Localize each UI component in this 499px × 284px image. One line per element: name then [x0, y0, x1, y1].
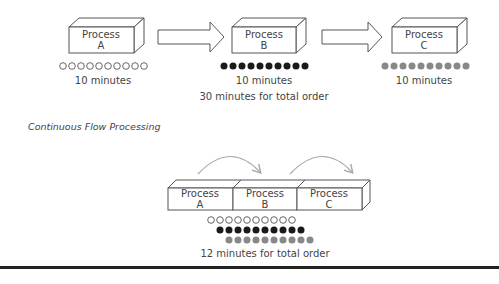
- batch-b-name: Process: [245, 29, 283, 40]
- flow-total-time: 12 minutes for total order: [200, 248, 330, 259]
- flow-a-name: Process: [181, 188, 219, 199]
- batch-c-name: Process: [405, 29, 443, 40]
- batch-a-dots: [60, 63, 148, 70]
- section-label: Continuous Flow Processing: [28, 121, 161, 132]
- curve-arrow-icon: [198, 156, 260, 174]
- curve-arrow-icon: [290, 156, 352, 174]
- flow-b-name: Process: [246, 188, 284, 199]
- flow-arrow-icon: [158, 22, 224, 52]
- flow-hollow-dots: [208, 217, 296, 224]
- batch-a-name: Process: [82, 29, 120, 40]
- batch-c-time: 10 minutes: [396, 75, 452, 86]
- flow-c-name: Process: [310, 188, 348, 199]
- batch-b-dots: [221, 63, 309, 70]
- batch-total-time: 30 minutes for total order: [199, 91, 329, 102]
- batch-c-letter: C: [421, 40, 428, 51]
- flow-b-letter: B: [262, 199, 269, 210]
- flow-gray-dots: [226, 237, 314, 244]
- batch-a-letter: A: [98, 40, 105, 51]
- bottom-rule: [0, 266, 499, 269]
- batch-c-dots: [382, 63, 470, 70]
- flow-a-letter: A: [197, 199, 204, 210]
- flow-black-dots: [217, 227, 305, 234]
- batch-b-letter: B: [261, 40, 268, 51]
- batch-a-time: 10 minutes: [75, 75, 131, 86]
- flow-arrow-icon: [322, 22, 382, 52]
- flow-c-letter: C: [326, 199, 333, 210]
- diagram-canvas: Process A 10 minutes Process B 10 minute…: [0, 0, 499, 284]
- batch-b-time: 10 minutes: [236, 75, 292, 86]
